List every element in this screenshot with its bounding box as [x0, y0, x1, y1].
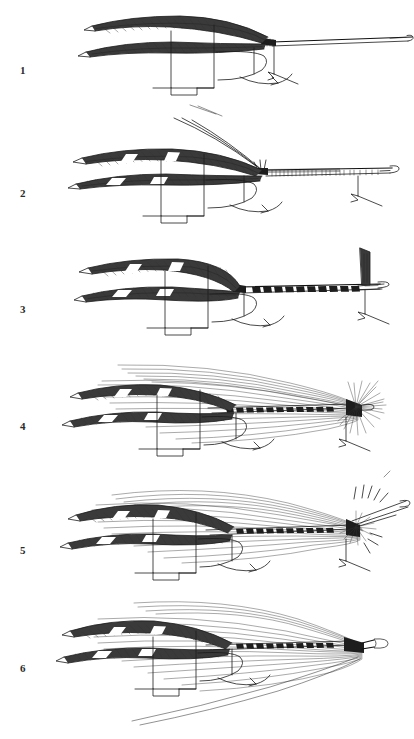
figure-art-1: [40, 0, 414, 120]
hook-point-1: [268, 46, 298, 84]
figure-row-4: 4: [0, 355, 414, 483]
figure-art-3: [40, 240, 414, 358]
ribbed-body-2: [266, 166, 399, 176]
figure-art-4: [40, 355, 414, 483]
hair-wing-lower-6: [132, 657, 360, 725]
wing-feather-upper-5: [68, 505, 234, 533]
fly-stage-2: [68, 118, 399, 223]
body-segments-3: [252, 286, 360, 293]
figure-row-5: 5: [0, 475, 414, 603]
fly-stage-3: [74, 248, 389, 335]
wing-feather-lower-1: [78, 42, 266, 57]
wing-feather-upper-4: [70, 385, 236, 411]
stray-marks-1: [190, 105, 222, 116]
figure-row-6: 6: [0, 595, 414, 739]
hook-bend-1: [216, 48, 292, 85]
whip-tool-5: [352, 500, 410, 527]
wing-feather-upper-2: [73, 149, 262, 176]
vise-jaws-5: [135, 513, 196, 580]
figure-row-2: 2: [0, 118, 414, 240]
body-segments-6: [236, 643, 334, 649]
hook-point-5: [339, 539, 370, 571]
fly-stage-4: [62, 365, 390, 477]
figure-art-6: [40, 595, 414, 739]
figure-number-3: 3: [20, 304, 26, 315]
fly-stage-6: [56, 602, 388, 725]
figure-number-2: 2: [20, 188, 26, 199]
wing-feather-upper-1: [84, 16, 268, 43]
figure-art-2: [40, 118, 414, 240]
finished-head-6: [344, 637, 388, 653]
figure-number-1: 1: [20, 65, 26, 76]
whip-finish-head-5: [340, 485, 410, 553]
figure-number-4: 4: [20, 421, 26, 432]
vise-jaws-2: [143, 154, 204, 223]
figure-art-5: [40, 475, 414, 603]
hook-eye-6: [374, 639, 388, 648]
hook-point-2: [351, 176, 382, 206]
vise-jaws-1: [153, 25, 214, 95]
hook-shank-1: [272, 35, 413, 46]
figure-number-6: 6: [20, 663, 26, 674]
fly-stage-1: [78, 16, 413, 116]
illustration-plate: 1: [0, 0, 414, 739]
fly-stage-5: [60, 485, 410, 580]
figure-number-5: 5: [20, 545, 26, 556]
figure-row-3: 3: [0, 240, 414, 358]
figure-row-1: 1: [0, 0, 414, 120]
hook-point-3: [358, 290, 389, 324]
